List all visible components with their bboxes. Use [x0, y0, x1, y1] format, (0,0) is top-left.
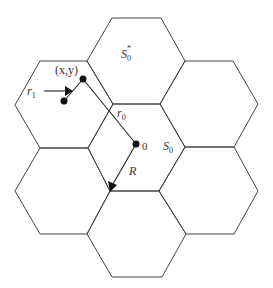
hex-cell-lower-left	[15, 148, 110, 234]
mobile-dot	[61, 98, 68, 105]
s0-label: S0	[163, 139, 173, 155]
origin-dot	[133, 141, 140, 148]
hex-cell-upper-right	[160, 61, 258, 147]
hex-cell-lower-right	[159, 147, 258, 234]
r0-label: r0	[117, 106, 126, 122]
hex-cell-bottom	[87, 191, 186, 277]
hex-cell-top	[87, 18, 185, 104]
r0-segment	[83, 79, 136, 144]
radius-r-label: R	[128, 164, 137, 178]
point-xy-label: (x,y)	[55, 63, 78, 77]
s0-star-label: S0*	[121, 44, 131, 63]
origin-label: 0	[142, 140, 148, 152]
hex-cell-diagram: (x,y) r1 r0 0 R S0 S0*	[0, 0, 273, 288]
point-xy-dot	[80, 76, 87, 83]
r1-label: r1	[27, 84, 36, 100]
